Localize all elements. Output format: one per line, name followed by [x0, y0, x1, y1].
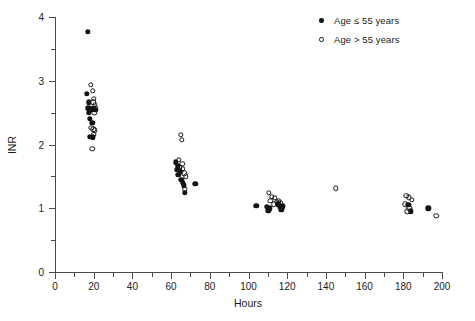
x-tick-label: 0: [52, 281, 58, 292]
filled-circle-icon: [316, 18, 327, 23]
x-tick-major: [287, 273, 288, 279]
x-tick-label: 160: [356, 281, 373, 292]
y-tick-label: 0: [0, 267, 44, 278]
x-tick-minor: [229, 273, 230, 277]
y-tick-label: 1: [0, 203, 44, 214]
data-point: [179, 137, 184, 142]
x-tick-major: [55, 273, 56, 279]
x-tick-major: [326, 273, 327, 279]
x-tick-label: 200: [434, 281, 451, 292]
data-point: [193, 181, 198, 186]
x-tick-minor: [384, 273, 385, 277]
x-tick-major: [171, 273, 172, 279]
x-tick-minor: [268, 273, 269, 277]
x-tick-major: [403, 273, 404, 279]
scatter-plot-figure: 01234020406080100120140160180200 INR Hou…: [0, 0, 475, 321]
x-tick-label: 60: [166, 281, 177, 292]
data-point: [91, 132, 96, 137]
x-tick-label: 80: [204, 281, 215, 292]
y-tick-label: 3: [0, 75, 44, 86]
y-tick-label: 4: [0, 12, 44, 23]
x-tick-label: 120: [279, 281, 296, 292]
data-point: [409, 197, 414, 202]
x-tick-major: [365, 273, 366, 279]
data-point: [88, 82, 93, 87]
x-tick-minor: [190, 273, 191, 277]
x-tick-major: [249, 273, 250, 279]
data-point: [266, 208, 271, 213]
x-tick-minor: [423, 273, 424, 277]
x-tick-major: [442, 273, 443, 279]
legend-item-label: Age ≤ 55 years: [334, 15, 399, 26]
data-point: [333, 186, 338, 191]
data-point: [183, 174, 188, 179]
x-tick-label: 140: [318, 281, 335, 292]
legend-item-age-le-55: Age ≤ 55 years: [316, 11, 400, 30]
x-tick-label: 40: [127, 281, 138, 292]
x-tick-minor: [152, 273, 153, 277]
x-tick-minor: [307, 273, 308, 277]
data-point: [84, 91, 89, 96]
x-tick-minor: [74, 273, 75, 277]
data-point: [271, 202, 276, 207]
chart-legend: Age ≤ 55 years Age > 55 years: [316, 11, 400, 49]
x-axis-title: Hours: [234, 297, 262, 309]
x-tick-major: [210, 273, 211, 279]
open-circle-icon: [316, 37, 327, 42]
x-tick-minor: [345, 273, 346, 277]
x-tick-minor: [113, 273, 114, 277]
x-tick-major: [132, 273, 133, 279]
x-tick-label: 100: [240, 281, 257, 292]
data-point: [90, 88, 95, 93]
data-point: [85, 29, 90, 34]
x-tick-major: [94, 273, 95, 279]
data-point: [433, 213, 438, 218]
data-point: [426, 206, 431, 211]
legend-item-label: Age > 55 years: [334, 34, 400, 45]
data-point: [89, 146, 94, 151]
plot-area: [55, 17, 442, 272]
data-point: [92, 110, 97, 115]
legend-item-age-gt-55: Age > 55 years: [316, 30, 400, 49]
x-tick-label: 180: [395, 281, 412, 292]
y-axis-title: INR: [6, 136, 18, 154]
x-tick-label: 20: [88, 281, 99, 292]
data-point: [254, 203, 259, 208]
